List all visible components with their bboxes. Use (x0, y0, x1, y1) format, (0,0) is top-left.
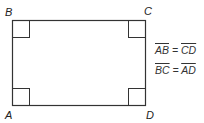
right-angle-marker-b (13, 21, 30, 38)
vertex-label-a: A (5, 110, 12, 121)
vertex-label-b: B (5, 7, 12, 18)
rectangle-figure (0, 0, 204, 123)
right-angle-marker-c (129, 21, 146, 38)
segment-bc: BC (155, 64, 170, 76)
segment-ad: AD (181, 64, 196, 76)
segment-cd: CD (181, 44, 196, 56)
equation-bc-ad: BC = AD (155, 65, 196, 76)
right-angle-marker-a (13, 89, 30, 106)
rectangle-abcd (13, 21, 146, 106)
equation-ab-cd: AB = CD (155, 45, 196, 56)
segment-ab: AB (155, 44, 169, 56)
vertex-label-d: D (146, 110, 154, 121)
equals-sign: = (172, 44, 178, 56)
right-angle-marker-d (129, 89, 146, 106)
vertex-label-c: C (144, 6, 152, 17)
equals-sign: = (173, 64, 179, 76)
